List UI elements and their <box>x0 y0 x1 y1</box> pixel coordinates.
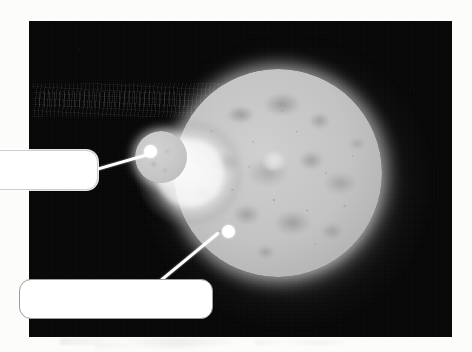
page-margin-bottom <box>0 337 472 352</box>
callout-top-label <box>0 151 97 163</box>
leader-dot-bottom[interactable] <box>222 225 235 238</box>
callout-box-bottom[interactable] <box>19 279 213 319</box>
leader-dot-top[interactable] <box>144 145 157 158</box>
moon-major <box>174 69 382 277</box>
moon-major-bright-region <box>261 151 287 170</box>
page-canvas <box>0 0 472 352</box>
moon-major-craters <box>174 69 382 277</box>
emulsion-streak-secondary <box>39 91 189 107</box>
page-margin-top <box>0 0 472 21</box>
page-margin-right <box>452 0 472 352</box>
callout-box-top[interactable] <box>0 150 98 190</box>
callout-bottom-label <box>20 280 212 292</box>
